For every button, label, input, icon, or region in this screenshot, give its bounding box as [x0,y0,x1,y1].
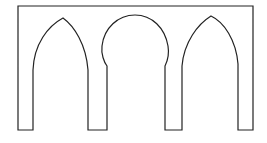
arcade-outline [18,6,253,130]
arcade-diagram [0,0,267,143]
